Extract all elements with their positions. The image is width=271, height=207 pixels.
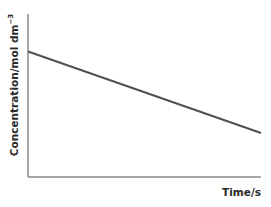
chart-plot (0, 0, 271, 207)
concentration-line (28, 51, 261, 133)
x-axis-label: Time/s (222, 186, 261, 198)
y-axis-label: Concentration/mol dm−3 (7, 14, 20, 156)
chart: Concentration/mol dm−3 Time/s (0, 0, 271, 207)
